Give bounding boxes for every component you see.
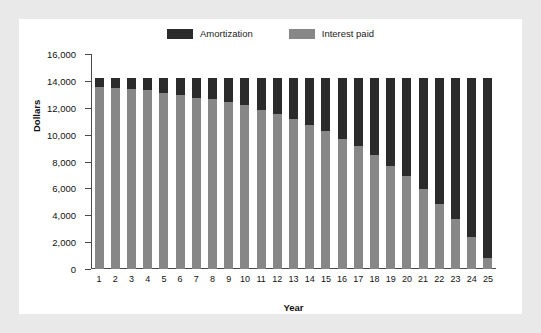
y-tick-8000: 8,000	[85, 162, 91, 163]
bar-segment-amortization-18	[370, 78, 379, 156]
x-tick-label-20: 20	[402, 274, 412, 284]
bar-segment-amortization-2	[111, 78, 120, 89]
bar-segment-amortization-14	[305, 78, 314, 125]
bar-year-24	[467, 78, 476, 269]
bar-segment-interest-21	[419, 189, 428, 269]
bar-segment-interest-10	[240, 105, 249, 269]
x-tick-label-12: 12	[272, 274, 282, 284]
bar-segment-amortization-1	[95, 78, 104, 87]
legend-label-interest-paid: Interest paid	[322, 29, 374, 39]
plot-area: 02,0004,0006,0008,00010,00012,00014,0001…	[91, 54, 496, 269]
x-tick-label-18: 18	[369, 274, 379, 284]
bar-segment-amortization-20	[402, 78, 411, 176]
bar-segment-amortization-19	[386, 78, 395, 166]
bar-year-22	[435, 78, 444, 269]
x-tick-label-13: 13	[288, 274, 298, 284]
bar-year-6	[176, 78, 185, 269]
x-tick-label-11: 11	[256, 274, 265, 284]
bar-segment-amortization-15	[321, 78, 330, 131]
bar-year-4	[143, 78, 152, 269]
bar-year-1	[95, 78, 104, 269]
x-tick-label-15: 15	[321, 274, 331, 284]
bar-year-13	[289, 78, 298, 269]
x-tick-label-4: 4	[145, 274, 150, 284]
x-tick-label-5: 5	[161, 274, 166, 284]
bar-year-5	[159, 78, 168, 269]
y-tick-14000: 14,000	[85, 81, 91, 82]
bar-segment-amortization-24	[467, 78, 476, 238]
bar-year-9	[224, 78, 233, 269]
bar-segment-interest-23	[451, 219, 460, 269]
x-tick-label-9: 9	[226, 274, 231, 284]
bar-segment-amortization-7	[192, 78, 201, 99]
bar-segment-interest-4	[143, 90, 152, 269]
bar-year-25	[483, 78, 492, 269]
bar-segment-interest-22	[435, 204, 444, 269]
bar-year-18	[370, 78, 379, 269]
bar-segment-amortization-8	[208, 78, 217, 100]
bar-segment-interest-1	[95, 87, 104, 269]
x-tick-label-24: 24	[467, 274, 477, 284]
y-tick-6000: 6,000	[85, 188, 91, 189]
bar-year-20	[402, 78, 411, 269]
bar-segment-interest-13	[289, 119, 298, 269]
bar-year-14	[305, 78, 314, 269]
bar-segment-amortization-11	[257, 78, 266, 111]
x-tick-label-21: 21	[418, 274, 428, 284]
bar-year-23	[451, 78, 460, 269]
bar-segment-interest-18	[370, 155, 379, 269]
y-tick-label-6000: 6,000	[52, 183, 76, 194]
y-axis-title: Dollars	[31, 100, 42, 132]
bar-segment-amortization-9	[224, 78, 233, 103]
y-tick-label-12000: 12,000	[47, 102, 76, 113]
bar-segment-amortization-23	[451, 78, 460, 219]
x-tick-label-2: 2	[113, 274, 118, 284]
x-tick-label-16: 16	[337, 274, 347, 284]
x-tick-label-6: 6	[178, 274, 183, 284]
legend-swatch-interest-paid	[289, 29, 315, 39]
y-tick-label-4000: 4,000	[52, 210, 76, 221]
x-axis-title: Year	[91, 302, 496, 313]
bar-segment-interest-5	[159, 93, 168, 269]
bar-segment-amortization-4	[143, 78, 152, 90]
bar-year-3	[127, 78, 136, 269]
bar-segment-amortization-3	[127, 78, 136, 89]
x-tick-label-8: 8	[210, 274, 215, 284]
bar-segment-amortization-5	[159, 78, 168, 93]
y-tick-label-14000: 14,000	[47, 75, 76, 86]
bar-segment-interest-15	[321, 131, 330, 269]
legend-item-amortization: Amortization	[167, 29, 253, 39]
x-tick-label-7: 7	[194, 274, 199, 284]
bar-segment-amortization-6	[176, 78, 185, 95]
y-tick-label-10000: 10,000	[47, 129, 76, 140]
bar-year-21	[419, 78, 428, 269]
bar-year-17	[354, 78, 363, 269]
x-tick-label-14: 14	[305, 274, 315, 284]
bar-year-15	[321, 78, 330, 269]
bar-segment-amortization-21	[419, 78, 428, 190]
bar-segment-amortization-12	[273, 78, 282, 115]
legend-label-amortization: Amortization	[200, 29, 253, 39]
y-tick-label-8000: 8,000	[52, 156, 76, 167]
bar-year-2	[111, 78, 120, 269]
chart-legend: Amortization Interest paid	[19, 29, 522, 39]
y-tick-label-0: 0	[71, 264, 76, 275]
bar-year-11	[257, 78, 266, 269]
chart-panel: Amortization Interest paid 02,0004,0006,…	[19, 19, 522, 314]
bar-year-10	[240, 78, 249, 269]
legend-swatch-amortization	[167, 29, 193, 39]
bar-segment-interest-14	[305, 125, 314, 269]
bar-segment-interest-8	[208, 99, 217, 269]
y-tick-12000: 12,000	[85, 108, 91, 109]
bar-segment-interest-19	[386, 166, 395, 269]
bar-segment-interest-24	[467, 237, 476, 269]
bar-segment-interest-11	[257, 110, 266, 269]
y-tick-10000: 10,000	[85, 135, 91, 136]
legend-item-interest-paid: Interest paid	[289, 29, 374, 39]
x-tick-label-17: 17	[353, 274, 363, 284]
bar-segment-interest-9	[224, 102, 233, 269]
y-tick-2000: 2,000	[85, 242, 91, 243]
y-tick-4000: 4,000	[85, 215, 91, 216]
bar-year-19	[386, 78, 395, 269]
y-tick-label-16000: 16,000	[47, 49, 76, 60]
